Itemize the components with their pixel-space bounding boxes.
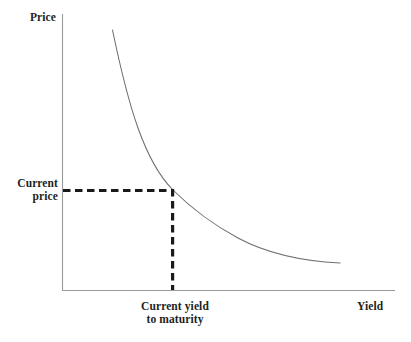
- current-ytm-label-line1: Current yield: [105, 300, 245, 313]
- current-price-label-line2: price: [0, 190, 58, 203]
- current-ytm-label-line2: to maturity: [105, 313, 245, 326]
- chart-canvas: [0, 0, 411, 342]
- price-yield-chart: Price Yield Current price Current yield …: [0, 0, 411, 342]
- x-axis-title: Yield: [357, 300, 383, 313]
- current-price-label-line1: Current: [0, 177, 58, 190]
- current-ytm-label: Current yield to maturity: [105, 300, 245, 325]
- y-axis-title: Price: [30, 11, 56, 24]
- current-price-label: Current price: [0, 177, 58, 202]
